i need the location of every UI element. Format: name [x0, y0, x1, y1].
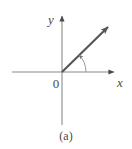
figure-caption: (a)	[59, 129, 72, 143]
angle-standard-position-diagram: y x 0 (a)	[0, 0, 132, 149]
figure-container: y x 0 (a)	[0, 0, 132, 149]
origin-label: 0	[53, 76, 60, 91]
y-axis-label: y	[46, 12, 54, 27]
x-axis-label: x	[116, 75, 123, 90]
figure-background	[0, 0, 132, 149]
